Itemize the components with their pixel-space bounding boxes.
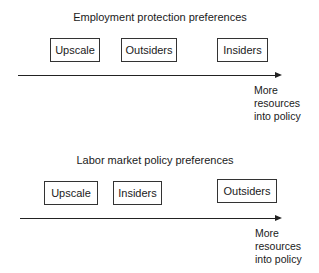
axis-arrow <box>18 75 276 76</box>
group-box-insiders: Insiders <box>217 38 268 62</box>
axis-note-line: resources <box>255 240 302 253</box>
axis-note: More resources into policy <box>255 227 302 266</box>
axis-arrow <box>20 218 276 219</box>
group-box-upscale: Upscale <box>44 181 98 205</box>
axis-note-line: into policy <box>255 253 302 266</box>
axis-note-line: into policy <box>254 110 301 123</box>
axis-note-line: More <box>254 84 301 97</box>
group-box-insiders: Insiders <box>113 181 162 205</box>
panel-title: Employment protection preferences <box>73 11 247 23</box>
group-box-outsiders: Outsiders <box>121 38 177 62</box>
axis-note-line: resources <box>254 97 301 110</box>
group-box-outsiders: Outsiders <box>217 179 277 203</box>
panel-title: Labor market policy preferences <box>76 154 233 166</box>
axis-note: More resources into policy <box>254 84 301 123</box>
group-box-upscale: Upscale <box>50 38 100 62</box>
axis-note-line: More <box>255 227 302 240</box>
